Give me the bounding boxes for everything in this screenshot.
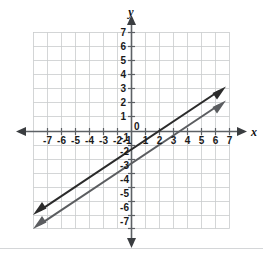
- y-tick-label: -3: [120, 160, 129, 171]
- x-tick-label: 1: [143, 135, 149, 146]
- x-tick-label: -3: [99, 135, 108, 146]
- x-tick-label: 6: [213, 135, 219, 146]
- coordinate-plane-figure: -7 -6 -5 -4 -3 -2 -1 1 2 3 4 5 6 7 7 6 5…: [0, 0, 263, 256]
- y-axis-label: y: [126, 5, 134, 19]
- y-tick-label: 2: [120, 97, 126, 108]
- y-tick-label: 1: [120, 111, 126, 122]
- y-tick-label: -1: [120, 132, 129, 143]
- y-tick-label: 6: [120, 41, 126, 52]
- y-tick-label: -4: [120, 174, 129, 185]
- y-tick-label: -2: [120, 146, 129, 157]
- x-axis-label: x: [250, 125, 257, 139]
- x-tick-label: 7: [227, 135, 233, 146]
- y-tick-label: -5: [120, 188, 129, 199]
- y-tick-label: 5: [120, 55, 126, 66]
- x-tick-label: -6: [57, 135, 66, 146]
- x-tick-label: 3: [171, 135, 177, 146]
- y-tick-label: 7: [120, 27, 126, 38]
- origin-label: 0: [134, 121, 140, 132]
- x-tick-label: -7: [43, 135, 52, 146]
- y-tick-label: 4: [120, 69, 126, 80]
- y-tick-label: 3: [120, 83, 126, 94]
- x-tick-label: 4: [185, 135, 191, 146]
- x-tick-label: -4: [85, 135, 94, 146]
- x-tick-label: -5: [71, 135, 80, 146]
- y-tick-label: -6: [120, 202, 129, 213]
- graph-canvas: -7 -6 -5 -4 -3 -2 -1 1 2 3 4 5 6 7 7 6 5…: [0, 0, 263, 256]
- x-tick-label: 2: [157, 135, 163, 146]
- y-tick-label: -7: [120, 216, 129, 227]
- x-tick-label: 5: [199, 135, 205, 146]
